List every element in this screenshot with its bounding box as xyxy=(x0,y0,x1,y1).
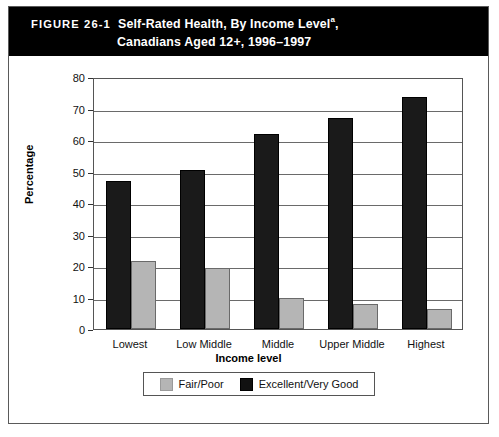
figure-title-text-block: FIGURE 26-1 Self-Rated Health, By Income… xyxy=(9,12,348,51)
x-axis-tick-label: Lowest xyxy=(113,338,148,350)
legend-label-excellent-very-good: Excellent/Very Good xyxy=(259,378,359,390)
legend-swatch-fair-poor xyxy=(160,378,173,391)
y-axis-tick-label: 50 xyxy=(57,167,85,179)
figure-title-comma: , xyxy=(335,17,339,31)
figure-title-line-1: FIGURE 26-1 Self-Rated Health, By Income… xyxy=(31,12,338,34)
x-axis-tick-label: Low Middle xyxy=(176,338,232,350)
figure-container: FIGURE 26-1 Self-Rated Health, By Income… xyxy=(0,0,499,437)
bar-highest-excellent-very-good xyxy=(402,97,427,329)
y-axis-tick-label: 30 xyxy=(57,230,85,242)
y-axis-tick-label: 80 xyxy=(57,72,85,84)
bar-low-middle-excellent-very-good xyxy=(180,170,205,329)
bar-low-middle-fair-poor xyxy=(205,268,230,329)
plot-inner xyxy=(94,79,462,329)
legend-swatch-excellent-very-good xyxy=(240,378,253,391)
legend-item-excellent-very-good: Excellent/Very Good xyxy=(240,378,359,391)
x-axis-tick-label: Upper Middle xyxy=(319,338,384,350)
y-axis-tick-label: 70 xyxy=(57,104,85,116)
y-axis-tick-label: 0 xyxy=(57,324,85,336)
bar-upper-middle-fair-poor xyxy=(353,304,378,329)
plot-area xyxy=(93,78,463,330)
y-axis-tick-label: 20 xyxy=(57,261,85,273)
x-axis-title: Income level xyxy=(9,352,488,364)
chart-legend: Fair/Poor Excellent/Very Good xyxy=(143,372,375,396)
x-axis-tick-label: Middle xyxy=(262,338,294,350)
bar-lowest-fair-poor xyxy=(131,261,156,329)
chart-area: Percentage 01020304050607080 LowestLow M… xyxy=(9,56,488,423)
figure-title-line-2: Canadians Aged 12+, 1996–1997 xyxy=(117,34,338,51)
figure-number-label: FIGURE 26-1 xyxy=(31,18,111,30)
bar-highest-fair-poor xyxy=(427,309,452,329)
bar-middle-excellent-very-good xyxy=(254,134,279,329)
legend-item-fair-poor: Fair/Poor xyxy=(160,378,224,391)
legend-label-fair-poor: Fair/Poor xyxy=(179,378,224,390)
y-axis-tick-mark xyxy=(88,330,93,331)
figure-title-bar: FIGURE 26-1 Self-Rated Health, By Income… xyxy=(9,7,488,56)
y-axis-tick-label: 60 xyxy=(57,135,85,147)
bar-middle-fair-poor xyxy=(279,298,304,330)
bar-upper-middle-excellent-very-good xyxy=(328,118,353,329)
figure-title-main: Self-Rated Health, By Income Level xyxy=(118,17,330,31)
y-axis-tick-label: 10 xyxy=(57,293,85,305)
bar-lowest-excellent-very-good xyxy=(106,181,131,329)
y-axis-tick-label: 40 xyxy=(57,198,85,210)
x-axis-tick-label: Highest xyxy=(407,338,444,350)
y-axis-title: Percentage xyxy=(23,145,35,204)
